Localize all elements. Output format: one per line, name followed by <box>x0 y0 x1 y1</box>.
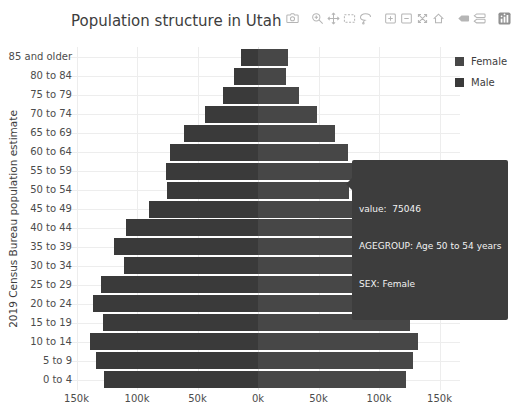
female-swatch-icon <box>455 57 464 66</box>
bar-male-55-to-59[interactable] <box>166 163 258 180</box>
bar-female-10-to-14[interactable] <box>258 333 418 350</box>
bar-female-50-to-54[interactable] <box>258 182 349 199</box>
legend-label: Female <box>471 56 507 67</box>
bar-male-65-to-69[interactable] <box>184 125 258 142</box>
plotly-figure: Population structure in Utah 85 and olde… <box>0 0 525 414</box>
bar-male-0-to-4[interactable] <box>104 371 258 388</box>
bar-male-20-to-24[interactable] <box>93 295 258 312</box>
x-tick-label: 100k <box>357 393 401 404</box>
hover-compare-icon[interactable] <box>471 10 487 26</box>
bar-male-25-to-29[interactable] <box>101 276 258 293</box>
plotly-modebar <box>275 10 512 26</box>
x-tick-label: 50k <box>297 393 341 404</box>
y-axis-title: 2019 Census Bureau population estimate <box>7 48 21 391</box>
bar-male-50-to-54[interactable] <box>167 182 258 199</box>
tooltip-arrow <box>346 178 352 190</box>
modebar-group <box>284 10 300 26</box>
x-tick-label: 150k <box>55 393 99 404</box>
reset-axes-icon[interactable] <box>430 10 446 26</box>
tooltip-sex-line: SEX: Female <box>359 278 501 291</box>
x-gridline <box>77 47 78 390</box>
box-select-icon[interactable] <box>341 10 357 26</box>
bar-female-70-to-74[interactable] <box>258 106 317 123</box>
zoom-icon[interactable] <box>309 10 325 26</box>
zoom-in-icon[interactable] <box>382 10 398 26</box>
modebar-group <box>455 10 487 26</box>
x-tick-label: 100k <box>115 393 159 404</box>
bar-female-60-to-64[interactable] <box>258 144 348 161</box>
bar-female-45-to-49[interactable] <box>258 201 366 218</box>
hover-closest-icon[interactable] <box>455 10 471 26</box>
lasso-select-icon[interactable] <box>357 10 373 26</box>
autoscale-icon[interactable] <box>414 10 430 26</box>
pan-icon[interactable] <box>325 10 341 26</box>
bar-male-70-to-74[interactable] <box>205 106 258 123</box>
bar-male-30-to-34[interactable] <box>124 257 258 274</box>
bar-male-10-to-14[interactable] <box>90 333 258 350</box>
modebar-group <box>382 10 446 26</box>
x-tick-label: 50k <box>176 393 220 404</box>
modebar-group <box>309 10 373 26</box>
bar-male-75-to-79[interactable] <box>223 87 258 104</box>
modebar-group <box>496 10 512 26</box>
legend-label: Male <box>471 77 495 88</box>
bar-female-65-to-69[interactable] <box>258 125 335 142</box>
chart-title: Population structure in Utah <box>71 12 281 30</box>
bar-male-15-to-19[interactable] <box>103 314 258 331</box>
bar-male-60-to-64[interactable] <box>170 144 258 161</box>
bar-female-5-to-9[interactable] <box>258 352 413 369</box>
x-tick-label: 150k <box>418 393 462 404</box>
tooltip-value-line: value: 75046 <box>359 203 501 216</box>
hover-tooltip: value: 75046 AGEGROUP: Age 50 to 54 year… <box>352 160 508 320</box>
legend-item-male[interactable]: Male <box>455 72 507 93</box>
bar-female-80-to-84[interactable] <box>258 68 286 85</box>
zoom-out-icon[interactable] <box>398 10 414 26</box>
bar-male-35-to-39[interactable] <box>114 238 258 255</box>
bar-female-75-to-79[interactable] <box>258 87 299 104</box>
bar-male-45-to-49[interactable] <box>149 201 258 218</box>
bar-female-55-to-59[interactable] <box>258 163 352 180</box>
bar-female-0-to-4[interactable] <box>258 371 406 388</box>
x-tick-label: 0k <box>236 393 280 404</box>
tooltip-agegroup-line: AGEGROUP: Age 50 to 54 years <box>359 240 501 253</box>
bar-male-80-to-84[interactable] <box>234 68 258 85</box>
legend: FemaleMale <box>455 51 507 93</box>
legend-item-female[interactable]: Female <box>455 51 507 72</box>
camera-icon[interactable] <box>284 10 300 26</box>
bar-male-5-to-9[interactable] <box>96 352 258 369</box>
plotly-logo-icon[interactable] <box>496 10 512 26</box>
bar-male-40-to-44[interactable] <box>126 219 258 236</box>
male-swatch-icon <box>455 78 464 87</box>
bar-female-85-and-older[interactable] <box>258 49 288 66</box>
bar-male-85-and-older[interactable] <box>241 49 258 66</box>
